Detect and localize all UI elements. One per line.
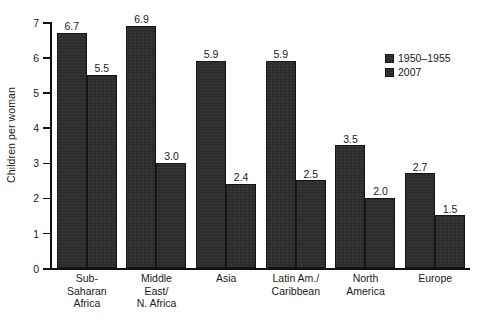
bar: 2.4 bbox=[226, 184, 256, 268]
bar: 5.9 bbox=[196, 61, 226, 268]
bar-chart: Children per woman 01234567 6.75.56.93.0… bbox=[0, 0, 491, 323]
category-label-line: Europe bbox=[400, 272, 470, 285]
category-label-line: N. Africa bbox=[122, 297, 192, 310]
y-axis-tick-label: 2 bbox=[33, 193, 39, 204]
bar: 3.5 bbox=[335, 145, 365, 268]
legend: 1950–19552007 bbox=[385, 52, 485, 80]
bar-value-label: 3.5 bbox=[343, 134, 358, 145]
legend-swatch bbox=[385, 54, 394, 63]
bar-value-label: 2.0 bbox=[373, 186, 388, 197]
x-axis-category-label: Europe bbox=[400, 272, 470, 285]
y-axis-tick: 3 bbox=[43, 163, 50, 165]
legend-swatch bbox=[385, 68, 394, 77]
bar-value-label: 5.9 bbox=[204, 49, 219, 60]
bar-value-label: 5.9 bbox=[274, 49, 289, 60]
y-axis-tick: 2 bbox=[43, 198, 50, 200]
y-axis-tick-label: 3 bbox=[33, 158, 39, 169]
bar: 6.9 bbox=[126, 26, 156, 268]
y-axis-tick-label: 5 bbox=[33, 88, 39, 99]
y-axis-tick: 6 bbox=[43, 57, 50, 59]
x-axis-category-label: MiddleEast/N. Africa bbox=[122, 272, 192, 310]
y-axis-tick: 0 bbox=[43, 268, 50, 270]
category-label-line: Sub- bbox=[52, 272, 122, 285]
category-label-line: Saharan bbox=[52, 285, 122, 298]
bar-value-label: 2.5 bbox=[304, 169, 319, 180]
bar-value-label: 2.4 bbox=[234, 172, 249, 183]
y-axis-title-text: Children per woman bbox=[5, 87, 17, 183]
category-label-line: Africa bbox=[52, 297, 122, 310]
x-axis-category-labels: Sub-SaharanAfricaMiddleEast/N. AfricaAsi… bbox=[52, 272, 470, 320]
bar-group: 6.93.0 bbox=[122, 14, 192, 268]
x-axis-category-label: Sub-SaharanAfrica bbox=[52, 272, 122, 310]
category-label-line: North bbox=[331, 272, 401, 285]
x-axis-category-label: Latin Am./Caribbean bbox=[261, 272, 331, 297]
legend-item: 1950–1955 bbox=[385, 52, 485, 65]
bar-value-label: 1.5 bbox=[443, 204, 458, 215]
legend-label: 1950–1955 bbox=[398, 53, 451, 64]
category-label-line: Middle bbox=[122, 272, 192, 285]
bar: 3.0 bbox=[156, 163, 186, 268]
bar: 2.5 bbox=[296, 180, 326, 268]
y-axis-tick-label: 1 bbox=[33, 228, 39, 239]
bar: 1.5 bbox=[435, 215, 465, 268]
y-axis-tick-label: 7 bbox=[33, 18, 39, 29]
y-axis-tick-label: 0 bbox=[33, 264, 39, 275]
y-axis-tick: 7 bbox=[43, 22, 50, 24]
bar: 5.9 bbox=[266, 61, 296, 268]
bar-value-label: 6.7 bbox=[65, 21, 80, 32]
category-label-line: Latin Am./ bbox=[261, 272, 331, 285]
y-axis-tick: 5 bbox=[43, 92, 50, 94]
bar-value-label: 6.9 bbox=[134, 14, 149, 25]
legend-label: 2007 bbox=[398, 67, 421, 78]
bar-value-label: 3.0 bbox=[164, 151, 179, 162]
category-label-line: America bbox=[331, 285, 401, 298]
x-axis-category-label: NorthAmerica bbox=[331, 272, 401, 297]
x-axis-category-label: Asia bbox=[191, 272, 261, 285]
bar-group: 5.92.4 bbox=[191, 14, 261, 268]
y-axis-title: Children per woman bbox=[0, 0, 22, 270]
bar-group: 5.92.5 bbox=[261, 14, 331, 268]
category-label-line: East/ bbox=[122, 285, 192, 298]
bar: 2.7 bbox=[405, 173, 435, 268]
legend-item: 2007 bbox=[385, 66, 485, 79]
bar: 5.5 bbox=[87, 75, 117, 268]
bar-group: 6.75.5 bbox=[52, 14, 122, 268]
x-axis-line bbox=[50, 268, 470, 270]
bar: 2.0 bbox=[365, 198, 395, 268]
y-axis-tick: 1 bbox=[43, 233, 50, 235]
category-label-line: Caribbean bbox=[261, 285, 331, 298]
bar: 6.7 bbox=[57, 33, 87, 268]
bar-value-label: 5.5 bbox=[95, 63, 110, 74]
bar-value-label: 2.7 bbox=[413, 162, 428, 173]
category-label-line: Asia bbox=[191, 272, 261, 285]
y-axis-tick-label: 4 bbox=[33, 123, 39, 134]
y-axis-tick: 4 bbox=[43, 127, 50, 129]
y-axis-tick-label: 6 bbox=[33, 53, 39, 64]
